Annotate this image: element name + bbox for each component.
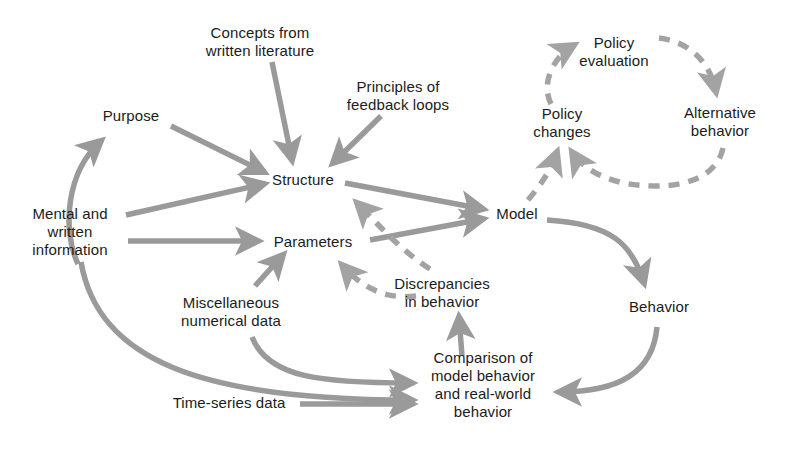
node-mental-written-information[interactable]: Mental and written information <box>32 205 107 259</box>
edge-behavior-to-comparison <box>559 327 657 392</box>
edge-alternative-to-policy-changes <box>572 148 723 186</box>
node-structure[interactable]: Structure <box>272 171 334 189</box>
diagram-canvas: Purpose Concepts from written literature… <box>0 0 792 462</box>
edge-purpose-to-structure <box>171 126 264 172</box>
node-behavior[interactable]: Behavior <box>629 298 689 316</box>
edge-policy-changes-to-eval <box>547 45 574 104</box>
node-model[interactable]: Model <box>496 205 537 223</box>
edge-parameters-to-model <box>370 219 483 240</box>
node-parameters[interactable]: Parameters <box>274 233 353 251</box>
edge-eval-to-alternative <box>659 38 716 92</box>
node-purpose[interactable]: Purpose <box>103 107 160 125</box>
node-miscellaneous-numerical-data[interactable]: Miscellaneous numerical data <box>181 294 281 330</box>
edge-mental-to-structure <box>126 184 264 215</box>
edge-principles-to-structure <box>333 116 381 163</box>
node-concepts[interactable]: Concepts from written literature <box>206 24 315 60</box>
node-discrepancies-in-behavior[interactable]: Discrepancies in behavior <box>394 275 490 311</box>
node-policy-changes[interactable]: Policy changes <box>533 105 590 141</box>
node-time-series-data[interactable]: Time-series data <box>173 394 286 412</box>
edge-misc-to-parameters <box>255 255 283 286</box>
node-principles[interactable]: Principles of feedback loops <box>347 78 449 114</box>
node-comparison-model-real-world-behavior[interactable]: Comparison of model behavior and real-wo… <box>431 349 535 421</box>
edge-model-to-behavior <box>547 220 644 283</box>
edge-concepts-to-structure <box>272 62 292 160</box>
node-alternative-behavior[interactable]: Alternative behavior <box>684 104 756 140</box>
node-policy-evaluation[interactable]: Policy evaluation <box>579 34 648 70</box>
edge-model-to-policy-changes <box>528 152 557 200</box>
edge-misc-to-comparison <box>252 337 412 383</box>
edge-structure-to-model <box>345 183 483 209</box>
diagram-connections <box>0 0 792 462</box>
